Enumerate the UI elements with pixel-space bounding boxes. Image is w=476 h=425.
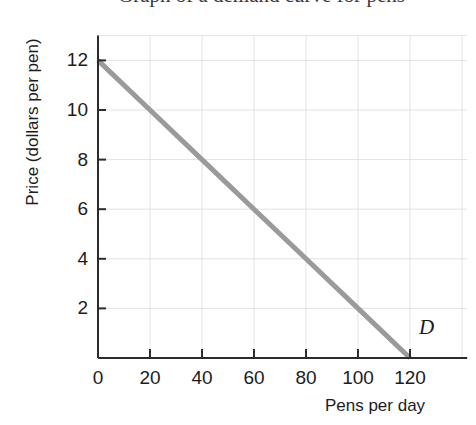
x-tick-label: 20 [127, 368, 173, 387]
demand-curve-label: D [419, 315, 434, 340]
y-tick-label: 4 [54, 249, 88, 268]
x-tick-label: 0 [75, 368, 121, 387]
y-tick-label: 8 [54, 150, 88, 169]
x-tick-label: 120 [387, 368, 433, 387]
grid-vertical-lines [150, 36, 462, 358]
y-tick-label: 12 [54, 50, 88, 69]
chart-axes [98, 36, 467, 358]
y-tick-label: 6 [54, 199, 88, 218]
x-tick-label: 60 [231, 368, 277, 387]
x-tick-label: 100 [335, 368, 381, 387]
x-tick-label: 40 [179, 368, 225, 387]
x-axis-title: Pens per day [290, 396, 460, 416]
y-tick-label: 10 [54, 100, 88, 119]
y-tick-label: 2 [54, 298, 88, 317]
grid-horizontal-lines [98, 36, 467, 309]
x-tick-label: 80 [283, 368, 329, 387]
demand-curve-figure: Graph of a demand curve for pens 2468101… [0, 0, 476, 425]
y-axis-title: Price (dollars per pen) [23, 17, 43, 227]
